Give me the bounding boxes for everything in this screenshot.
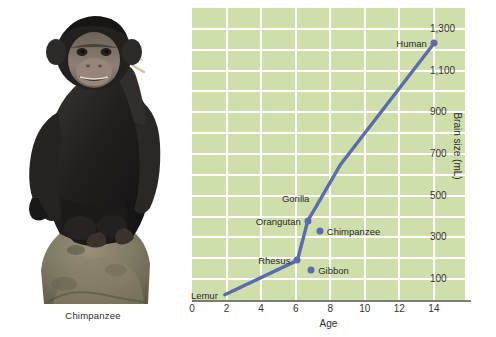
chimpanzee-photo-panel: Chimpanzee (0, 0, 186, 337)
data-label-lemur: Lemur (191, 289, 218, 300)
data-point-chimpanzee[interactable] (316, 228, 323, 235)
data-point-human[interactable] (430, 40, 437, 47)
data-label-human: Human (396, 38, 427, 49)
y-tick-700: 700 (430, 148, 447, 159)
x-tick-14: 14 (428, 303, 439, 314)
x-axis-title: Age (192, 318, 465, 329)
data-label-chimpanzee: Chimpanzee (327, 226, 380, 237)
brain-size-line (225, 43, 434, 294)
x-tick-0: 0 (189, 303, 195, 314)
y-axis-title: Brain size (mL) (449, 0, 465, 292)
chimpanzee-photo (8, 2, 180, 304)
x-axis-line (192, 300, 471, 302)
data-point-rhesus[interactable] (294, 257, 301, 264)
data-point-gibbon[interactable] (308, 266, 315, 273)
y-tick-100: 100 (430, 273, 447, 284)
y-tick-300: 300 (430, 231, 447, 242)
y-tick-500: 500 (430, 190, 447, 201)
figure-root: Chimpanzee LemurRhesusGibbonOrangutanChi… (0, 0, 496, 337)
data-series-line (192, 8, 465, 300)
x-tick-4: 4 (258, 303, 264, 314)
x-tick-2: 2 (224, 303, 230, 314)
data-point-orangutan[interactable] (304, 217, 311, 224)
x-tick-12: 12 (394, 303, 405, 314)
data-label-orangutan: Orangutan (256, 215, 301, 226)
y-tick-900: 900 (430, 106, 447, 117)
x-tick-8: 8 (327, 303, 333, 314)
x-tick-6: 6 (293, 303, 299, 314)
x-tick-10: 10 (359, 303, 370, 314)
photo-caption: Chimpanzee (0, 310, 186, 321)
chart-panel: LemurRhesusGibbonOrangutanChimpanzeeGori… (186, 0, 496, 337)
chimpanzee-illustration (8, 2, 180, 304)
data-label-rhesus: Rhesus (258, 255, 290, 266)
plot-area: LemurRhesusGibbonOrangutanChimpanzeeGori… (192, 8, 465, 300)
data-label-gorilla: Gorilla (282, 192, 309, 203)
data-label-gibbon: Gibbon (318, 264, 349, 275)
